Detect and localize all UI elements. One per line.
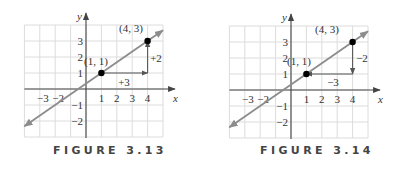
x-tick-label: 2 [114,92,120,104]
y-tick-label: 3 [283,36,289,48]
line-y-equals-2-3x-plus-1-3 [24,30,163,126]
point [98,70,104,76]
y-tick-label: −1 [71,99,83,111]
x-tick-label: 1 [99,92,105,104]
y-tick-label: −2 [276,116,288,128]
x-tick-label: −3 [37,92,49,104]
y-tick-label: 3 [78,35,84,47]
point [349,39,355,45]
step-label: +2 [150,52,162,64]
figures-canvas: xy −3−21234321−1−2 +3+2 (1, 1)(4, 3) FIG… [0,0,397,170]
line-y-equals-2-3x-plus-1-3 [229,31,368,127]
x-tick-label: 4 [145,92,151,104]
point [303,71,309,77]
y-tick-label: −2 [71,115,83,127]
figure-caption: FIGURE 3.13 [53,144,167,157]
point [144,38,150,44]
point-label: (1, 1) [287,55,311,68]
points: (1, 1)(4, 3) [84,22,151,76]
x-axis-label: x [172,92,178,104]
x-axis-label: x [377,93,383,105]
y-tick-label: 1 [78,67,84,79]
y-tick-label: 1 [283,68,289,80]
x-tick-label: 1 [304,93,310,105]
x-tick-label: 3 [129,92,135,104]
line-graph [229,31,368,127]
x-tick-label: 3 [334,93,340,105]
step-label: −2 [356,52,368,64]
figure-3-13: xy −3−21234321−1−2 +3+2 (1, 1)(4, 3) FIG… [24,10,178,157]
point-label: (4, 3) [315,23,339,36]
x-tick-label: 2 [319,93,325,105]
x-tick-label: −3 [242,93,254,105]
point-label: (1, 1) [84,55,108,68]
x-tick-label: 4 [350,93,356,105]
y-tick-label: 2 [78,51,84,63]
line-graph [24,30,163,126]
y-tick-label: −1 [276,100,288,112]
tick-labels: −3−21234321−1−2 [37,35,151,127]
figure-caption: FIGURE 3.14 [260,144,374,157]
step-label: −3 [327,76,339,88]
point-label: (4, 3) [119,22,143,35]
grid [24,25,163,137]
figure-3-14: xy −3−21234321−1−2 −2−3 (1, 1)(4, 3) FIG… [229,11,383,157]
grid [229,26,368,138]
step-label: +3 [118,76,130,88]
y-axis-label: y [281,11,287,23]
slope-arrows: +3+2 [101,41,161,88]
y-axis-label: y [76,10,82,22]
